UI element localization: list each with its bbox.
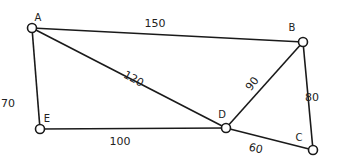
edge-weight-a-b: 150 [145, 17, 166, 30]
node-label-a: A [35, 12, 42, 23]
node-label-b: B [289, 22, 296, 33]
edge-weight-b-c: 80 [305, 91, 319, 104]
weighted-graph-diagram: 15070120908010060 ABCDE [0, 0, 340, 165]
edge-weight-e-d: 100 [110, 135, 131, 148]
edge-weight-labels: 15070120908010060 [1, 17, 319, 156]
edge-a-b [32, 28, 303, 42]
node-labels: ABCDE [35, 12, 303, 143]
edge-weight-a-d: 120 [121, 68, 146, 89]
node-label-c: C [296, 132, 303, 143]
node-d [222, 124, 231, 133]
node-e [36, 125, 45, 134]
edge-b-d [226, 42, 303, 128]
edge-weight-d-c: 60 [248, 141, 264, 157]
node-c [309, 146, 318, 155]
edges [32, 28, 313, 150]
edge-a-e [32, 28, 40, 129]
edge-weight-a-e: 70 [1, 97, 15, 110]
node-b [299, 38, 308, 47]
edge-e-d [40, 128, 226, 129]
node-label-d: D [218, 109, 226, 120]
nodes [28, 24, 318, 155]
node-a [28, 24, 37, 33]
node-label-e: E [44, 113, 50, 124]
